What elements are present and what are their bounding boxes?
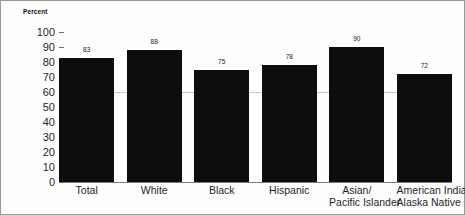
y-axis-tick-80: 80 xyxy=(19,57,55,68)
bar-slot: 83 xyxy=(59,32,114,182)
bar[interactable]: 78 xyxy=(262,65,317,182)
bar[interactable]: 88 xyxy=(127,50,182,182)
category-label-5: American Indian/Alaska Native xyxy=(397,185,452,208)
x-axis-baseline xyxy=(59,182,452,183)
category-label-2: Black xyxy=(194,185,249,208)
y-axis-tick-20: 20 xyxy=(19,147,55,158)
bar-value-label: 90 xyxy=(329,36,384,43)
category-label-4: Asian/Pacific Islander xyxy=(329,185,384,208)
category-label-line: American Indian/ xyxy=(397,185,452,197)
category-label-line: Alaska Native xyxy=(397,197,452,209)
bar-value-label: 78 xyxy=(262,54,317,61)
bar-value-label: 75 xyxy=(194,59,249,66)
y-axis-tick-100: 100 xyxy=(19,27,55,38)
x-axis-category-labels: TotalWhiteBlackHispanicAsian/Pacific Isl… xyxy=(59,185,452,208)
bar[interactable]: 75 xyxy=(194,70,249,183)
category-label-line: Hispanic xyxy=(262,185,317,197)
y-axis-tick-10: 10 xyxy=(19,162,55,173)
category-label-3: Hispanic xyxy=(262,185,317,208)
bar-slot: 88 xyxy=(127,32,182,182)
bar-slot: 90 xyxy=(329,32,384,182)
y-axis-tick-70: 70 xyxy=(19,72,55,83)
y-axis-tick-90: 90 xyxy=(19,42,55,53)
bar-value-label: 72 xyxy=(397,63,452,70)
category-label-line: Black xyxy=(194,185,249,197)
category-label-line: Total xyxy=(59,185,114,197)
category-label-line: Pacific Islander xyxy=(329,197,384,209)
category-label-0: Total xyxy=(59,185,114,208)
bar[interactable]: 90 xyxy=(329,47,384,182)
bar[interactable]: 72 xyxy=(397,74,452,182)
y-axis-tick-40: 40 xyxy=(19,117,55,128)
y-axis-tick-30: 30 xyxy=(19,132,55,143)
bar-slot: 75 xyxy=(194,32,249,182)
y-axis-tick-60: 60 xyxy=(19,87,55,98)
category-label-line: Asian/ xyxy=(329,185,384,197)
bar-slot: 72 xyxy=(397,32,452,182)
plot-area: 1009080706050403020100 838875789072 Tota… xyxy=(1,1,464,214)
bar-series: 838875789072 xyxy=(59,32,452,182)
y-axis-tick-0: 0 xyxy=(19,177,55,188)
bar[interactable]: 83 xyxy=(59,58,114,183)
bar-value-label: 83 xyxy=(59,47,114,54)
bar-chart-figure: Percent 1009080706050403020100 838875789… xyxy=(0,0,465,215)
y-axis-tick-50: 50 xyxy=(19,102,55,113)
bar-slot: 78 xyxy=(262,32,317,182)
bar-value-label: 88 xyxy=(127,39,182,46)
category-label-1: White xyxy=(127,185,182,208)
category-label-line: White xyxy=(127,185,182,197)
